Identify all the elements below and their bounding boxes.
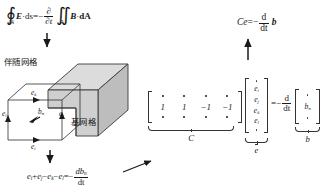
- flow-arrows-layer: [0, 0, 324, 192]
- arrow-scalar-to-matrix: [123, 161, 151, 172]
- figure-canvas: ∮ ∂A E·ds=−∂∂t ∬ A B·dA Ce=−ddtb ei+ej−e…: [0, 0, 324, 192]
